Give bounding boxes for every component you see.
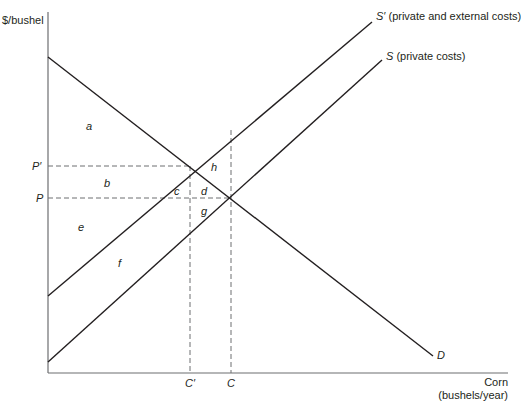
s-symbol: S [386, 50, 393, 62]
region-h-label: h [211, 161, 217, 173]
region-f-label: f [118, 257, 121, 269]
region-d-label: d [201, 185, 207, 197]
s-prime-symbol: S′ [376, 10, 385, 22]
c-prime-tick-label: C′ [185, 377, 195, 389]
s-curve-label: S (private costs) [386, 50, 465, 62]
private-supply-curve [48, 60, 382, 362]
x-axis-label-line2: (bushels/year) [430, 389, 508, 401]
region-g-label: g [201, 205, 207, 217]
p-tick-label: P [36, 192, 43, 204]
region-e-label: e [78, 221, 84, 233]
y-axis-label: $/bushel [2, 14, 44, 26]
demand-curve-label: D [437, 349, 445, 361]
x-axis-label-line1: Corn [430, 376, 508, 388]
c-tick-label: C [227, 377, 235, 389]
s-prime-curve-label: S′ (private and external costs) [376, 10, 521, 22]
social-supply-curve [48, 22, 372, 296]
demand-curve [48, 57, 433, 356]
region-b-label: b [104, 177, 110, 189]
region-c-label: c [174, 185, 180, 197]
region-a-label: a [86, 120, 92, 132]
p-prime-tick-label: P′ [32, 160, 41, 172]
s-prime-description: (private and external costs) [388, 10, 521, 22]
s-description: (private costs) [396, 50, 465, 62]
